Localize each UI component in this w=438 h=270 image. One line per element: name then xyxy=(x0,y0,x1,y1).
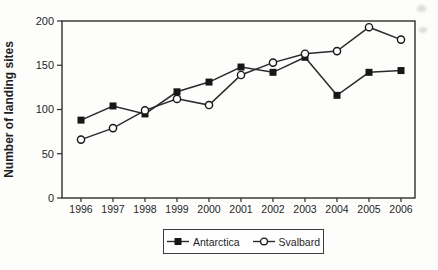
scan-artifact xyxy=(417,5,426,12)
svalbard-marker xyxy=(109,124,116,131)
y-axis-title: Number of landing sites xyxy=(2,41,16,178)
plot-border xyxy=(62,21,415,198)
legend-item-antarctica: Antarctica xyxy=(167,236,240,248)
x-tick-label: 2005 xyxy=(357,203,381,215)
chart-legend: Antarctica Svalbard xyxy=(163,229,324,254)
svalbard-marker xyxy=(237,71,244,78)
x-tick-label: 1998 xyxy=(133,203,157,215)
antarctica-marker xyxy=(110,102,117,109)
antarctica-marker xyxy=(238,64,245,71)
y-tick-label: 150 xyxy=(36,59,54,71)
scan-artifact xyxy=(419,27,427,33)
x-tick-label: 1999 xyxy=(165,203,189,215)
svalbard-marker xyxy=(269,59,276,66)
svalbard-marker xyxy=(365,24,372,31)
x-tick-label: 1996 xyxy=(69,203,93,215)
x-tick-label: 2002 xyxy=(261,203,285,215)
svalbard-marker xyxy=(141,107,148,114)
legend-label-antarctica: Antarctica xyxy=(193,236,240,248)
legend-label-svalbard: Svalbard xyxy=(279,236,320,248)
svalbard-marker xyxy=(333,47,340,54)
svalbard-marker xyxy=(301,50,308,57)
y-tick-label: 200 xyxy=(36,15,54,27)
x-tick-label: 2004 xyxy=(325,203,349,215)
antarctica-marker xyxy=(334,92,341,99)
legend-item-svalbard: Svalbard xyxy=(253,236,320,248)
antarctica-marker xyxy=(78,117,85,124)
svalbard-marker xyxy=(173,95,180,102)
y-tick-label: 100 xyxy=(36,103,54,115)
svalbard-marker xyxy=(77,136,84,143)
open-circle-marker-icon xyxy=(253,237,275,246)
antarctica-marker xyxy=(366,69,373,76)
x-tick-label: 1997 xyxy=(101,203,125,215)
x-tick-label: 2000 xyxy=(197,203,221,215)
antarctica-marker xyxy=(398,67,405,74)
antarctica-marker xyxy=(206,79,213,86)
y-tick-label: 0 xyxy=(48,192,54,204)
antarctica-marker xyxy=(174,88,181,95)
chart-figure: 0501001502001996199719981999200020012002… xyxy=(0,0,438,270)
x-tick-label: 2001 xyxy=(229,203,253,215)
svalbard-marker xyxy=(397,36,404,43)
y-tick-label: 50 xyxy=(42,148,54,160)
antarctica-marker xyxy=(270,69,277,76)
x-tick-label: 2006 xyxy=(389,203,413,215)
filled-square-marker-icon xyxy=(167,237,189,246)
svalbard-marker xyxy=(205,101,212,108)
x-tick-label: 2003 xyxy=(293,203,317,215)
